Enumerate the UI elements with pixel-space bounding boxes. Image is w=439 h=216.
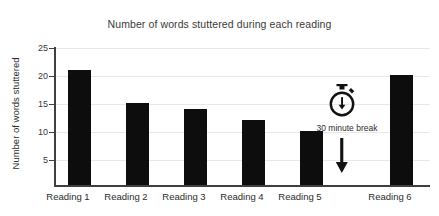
chart-title: Number of words stuttered during each re… bbox=[0, 18, 439, 30]
y-tick-mark-20 bbox=[49, 76, 55, 77]
y-tick-mark-15 bbox=[49, 104, 55, 105]
y-tick-mark-25 bbox=[49, 48, 55, 49]
x-label-reading-5: Reading 5 bbox=[260, 191, 340, 202]
down-arrow-icon bbox=[330, 138, 354, 174]
bar-reading-1 bbox=[68, 70, 91, 186]
gridline-20 bbox=[56, 76, 430, 77]
y-tick-label-5: 5 bbox=[18, 156, 48, 165]
y-axis-title: Number of words stuttered bbox=[10, 47, 21, 181]
y-axis-line bbox=[54, 47, 56, 187]
y-tick-mark-5 bbox=[49, 160, 55, 161]
gridline-25 bbox=[56, 48, 430, 49]
stopwatch-icon bbox=[325, 84, 359, 118]
bar-reading-4 bbox=[242, 120, 265, 186]
x-axis-line bbox=[54, 185, 430, 187]
y-tick-label-20: 20 bbox=[18, 72, 48, 81]
break-label: 30 minute break bbox=[305, 123, 389, 133]
y-tick-mark-10 bbox=[49, 132, 55, 133]
break-annotation: 30 minute break bbox=[300, 84, 390, 176]
chart-screenshot: Number of words stuttered during each re… bbox=[0, 0, 439, 216]
y-tick-labels: 25 20 15 10 5 bbox=[16, 0, 48, 216]
bar-reading-2 bbox=[126, 103, 149, 186]
y-tick-label-15: 15 bbox=[18, 100, 48, 109]
y-tick-label-25: 25 bbox=[18, 44, 48, 53]
y-tick-label-10: 10 bbox=[18, 128, 48, 137]
x-label-reading-6: Reading 6 bbox=[350, 191, 430, 202]
bar-reading-3 bbox=[184, 109, 207, 186]
bar-reading-6 bbox=[390, 75, 413, 186]
